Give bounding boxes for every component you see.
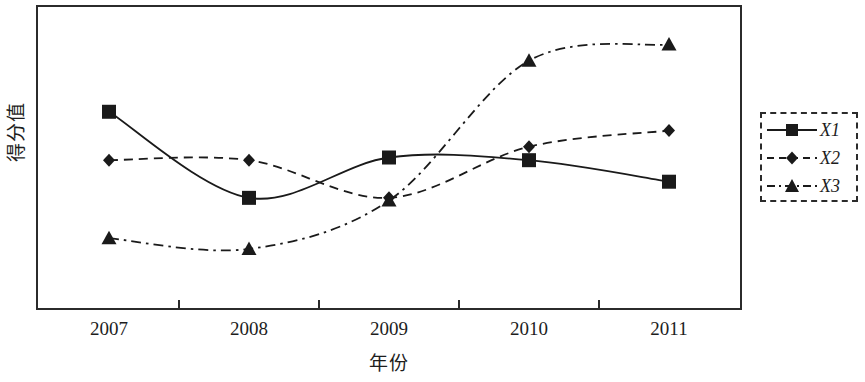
legend-label-x3: X3 xyxy=(819,177,840,195)
series-x3 xyxy=(102,37,677,255)
legend-label-x1: X1 xyxy=(819,121,840,139)
legend-swatch-dashed-diamond-icon xyxy=(765,148,819,168)
x-axis-label: 年份 xyxy=(36,348,742,375)
legend-item-x3[interactable]: X3 xyxy=(762,172,856,200)
legend-item-x2[interactable]: X2 xyxy=(762,144,856,172)
x-tick-2010: 2010 xyxy=(469,318,589,340)
chart-legend: X1 X2 X3 xyxy=(760,112,858,202)
x-axis-tick-labels: 20072008200920102011 xyxy=(36,318,742,344)
legend-item-x1[interactable]: X1 xyxy=(762,116,856,144)
x-tick-2007: 2007 xyxy=(49,318,169,340)
plot-series-canvas xyxy=(36,5,742,310)
legend-label-x2: X2 xyxy=(819,149,840,167)
x-tick-2008: 2008 xyxy=(189,318,309,340)
legend-swatch-dashdot-triangle-icon xyxy=(765,176,819,196)
x-tick-2011: 2011 xyxy=(609,318,729,340)
y-axis-label: 得分值 xyxy=(1,82,28,182)
x-tick-2009: 2009 xyxy=(329,318,449,340)
chart-figure: 得分值 20072008200920102011 年份 X1 xyxy=(0,0,865,382)
series-x1 xyxy=(102,105,676,205)
legend-swatch-solid-square-icon xyxy=(765,120,819,140)
